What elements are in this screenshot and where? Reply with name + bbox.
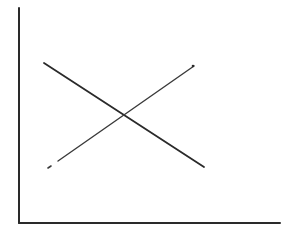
diagram-svg: [0, 0, 282, 245]
diagram-canvas: [0, 0, 282, 245]
ascending-line-tail: [48, 166, 51, 168]
ascending-line-endpoint: [192, 65, 195, 68]
